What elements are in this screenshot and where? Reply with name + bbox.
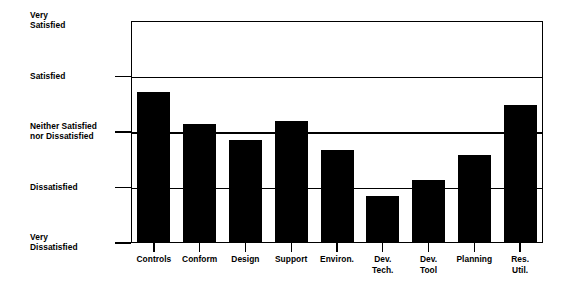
x-axis-label-line: Util. (490, 265, 550, 276)
y-axis-label-line: Very (30, 10, 126, 21)
y-axis-label-group: VerySatisfiedSatisfiedNeither Satisfiedn… (0, 0, 131, 291)
x-axis-label-group: ControlsConformDesignSupportEnviron.Dev.… (131, 254, 543, 290)
y-axis-label-line: Neither Satisfied (30, 121, 126, 132)
y-axis-label-line: Dissatisfied (30, 182, 126, 193)
x-axis-tick-mark (199, 243, 200, 252)
x-axis-tick-mark (336, 243, 337, 252)
y-axis-label: Neither Satisfiednor Dissatisfied (30, 121, 126, 142)
y-axis-label: Satisfied (30, 71, 126, 82)
bar (321, 150, 354, 243)
bar (229, 140, 262, 243)
y-axis-label-line: Satisfied (30, 20, 126, 31)
y-axis-label-line: Satisfied (30, 71, 126, 82)
x-axis-label-line: Res. (490, 254, 550, 265)
x-axis-tick-mark (153, 243, 154, 252)
x-axis-label: Res.Util. (490, 254, 550, 275)
bar (275, 121, 308, 243)
y-axis-label: VerySatisfied (30, 10, 126, 31)
y-axis-label-line: Very (30, 232, 126, 243)
x-axis-tick-mark (382, 243, 383, 252)
y-axis-label: VeryDissatisfied (30, 232, 126, 253)
x-axis-tick-mark (519, 243, 520, 252)
bar (458, 155, 491, 243)
x-axis-label-line: Tool (399, 265, 459, 276)
x-axis-tick-mark (428, 243, 429, 252)
x-axis-tick-mark (245, 243, 246, 252)
y-axis-label-line: Dissatisfied (30, 242, 126, 253)
bar (366, 196, 399, 243)
x-axis-tick-group (131, 243, 543, 253)
bar (137, 92, 170, 244)
bar (183, 124, 216, 243)
bar (504, 105, 537, 243)
x-axis-tick-mark (474, 243, 475, 252)
satisfaction-bar-chart: VerySatisfiedSatisfiedNeither Satisfiedn… (0, 0, 572, 291)
y-axis-label: Dissatisfied (30, 182, 126, 193)
x-axis-tick-mark (291, 243, 292, 252)
bar (412, 180, 445, 243)
bar-series (131, 21, 543, 243)
y-axis-label-line: nor Dissatisfied (30, 131, 126, 142)
